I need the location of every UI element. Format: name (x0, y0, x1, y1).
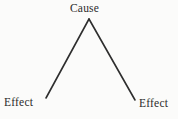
edge-cause-to-effect-left (46, 19, 89, 98)
node-label-effect-right: Effect (139, 97, 168, 109)
cause-effect-diagram: Cause Effect Effect (0, 0, 178, 119)
node-label-effect-left: Effect (4, 96, 33, 108)
edge-cause-to-effect-right (89, 19, 135, 100)
node-label-cause: Cause (70, 2, 99, 14)
